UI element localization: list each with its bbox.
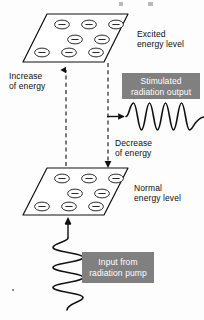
excited-label-line-2: energy level — [137, 40, 184, 50]
excited-electron — [89, 48, 104, 57]
diagram-canvas: Excited energy level Normal energy level… — [0, 0, 204, 320]
excited-electron — [35, 48, 50, 57]
excited-electron — [95, 35, 110, 44]
stimulated-output-box-label: Stimulated radiation output — [122, 76, 200, 97]
excited-energy-plane — [23, 14, 128, 62]
excited-electron — [109, 20, 124, 29]
excited-electron — [55, 20, 70, 29]
excited-electron — [62, 48, 77, 57]
scan-speck — [119, 2, 123, 6]
decrease-arrow-head — [105, 161, 112, 168]
excited-electron — [82, 20, 97, 29]
pump-box-line-2: radiation pump — [82, 268, 154, 279]
radiation-pump-box-label: Input from radiation pump — [82, 257, 154, 278]
decrease-label-line-2: of energy — [115, 149, 152, 159]
stimulated-box-line-2: radiation output — [122, 87, 200, 98]
increase-label-line-2: of energy — [9, 82, 45, 92]
normal-electron — [95, 189, 110, 198]
normal-label-line-2: energy level — [134, 194, 181, 204]
normal-electron — [109, 174, 124, 183]
excited-energy-level-label: Excited energy level — [137, 30, 184, 49]
radiation-pump-arrow-head — [65, 217, 72, 224]
normal-electron — [82, 174, 97, 183]
scan-speck — [148, 2, 153, 6]
normal-electron — [89, 202, 104, 211]
stimulated-output-wave — [126, 103, 204, 130]
normal-electron — [35, 202, 50, 211]
normal-energy-level-label: Normal energy level — [134, 184, 181, 203]
normal-electron — [55, 174, 70, 183]
normal-energy-plane — [23, 168, 128, 215]
scan-speck — [12, 289, 14, 291]
pump-box-line-1: Input from — [82, 257, 154, 268]
normal-electron — [62, 202, 77, 211]
excited-electron — [68, 35, 83, 44]
increase-of-energy-label: Increase of energy — [9, 72, 45, 91]
decrease-of-energy-label: Decrease of energy — [115, 139, 152, 158]
radiation-pump-wave — [53, 238, 83, 310]
stimulated-box-line-1: Stimulated — [122, 76, 200, 87]
normal-electron — [68, 189, 83, 198]
